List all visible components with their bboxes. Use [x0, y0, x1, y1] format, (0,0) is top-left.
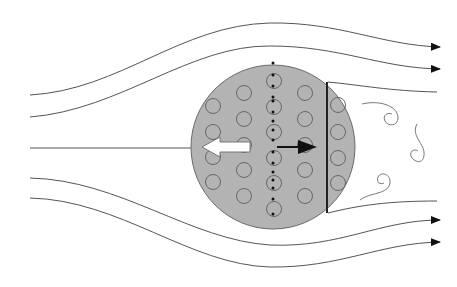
flow-diagram — [0, 0, 457, 287]
diagram-canvas — [0, 0, 457, 287]
vortex-3 — [360, 174, 390, 200]
vortex-1 — [362, 103, 398, 125]
streamline-lower-wake — [328, 201, 437, 213]
streamline-upper-wake — [328, 82, 437, 92]
vortex-2 — [411, 124, 424, 162]
wake-vortices — [360, 103, 424, 200]
